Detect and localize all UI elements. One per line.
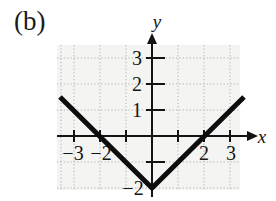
y-tick-label-3: 3 — [132, 47, 142, 69]
y-tick-label-neg2: −2 — [122, 177, 143, 199]
x-axis-label: x — [257, 126, 267, 147]
x-tick-label-neg3: −3 — [62, 142, 83, 164]
x-tick-label-3: 3 — [226, 142, 236, 164]
x-tick-label-neg2: −2 — [90, 142, 111, 164]
x-tick-label-2: 2 — [199, 142, 209, 164]
graph-plot: x y −3 −2 2 3 3 2 1 −2 — [0, 0, 276, 201]
y-axis-label: y — [151, 11, 162, 32]
y-tick-label-2: 2 — [132, 73, 142, 95]
y-tick-label-1: 1 — [132, 99, 142, 121]
plot-background — [57, 45, 240, 190]
figure-panel: (b) — [0, 0, 276, 201]
